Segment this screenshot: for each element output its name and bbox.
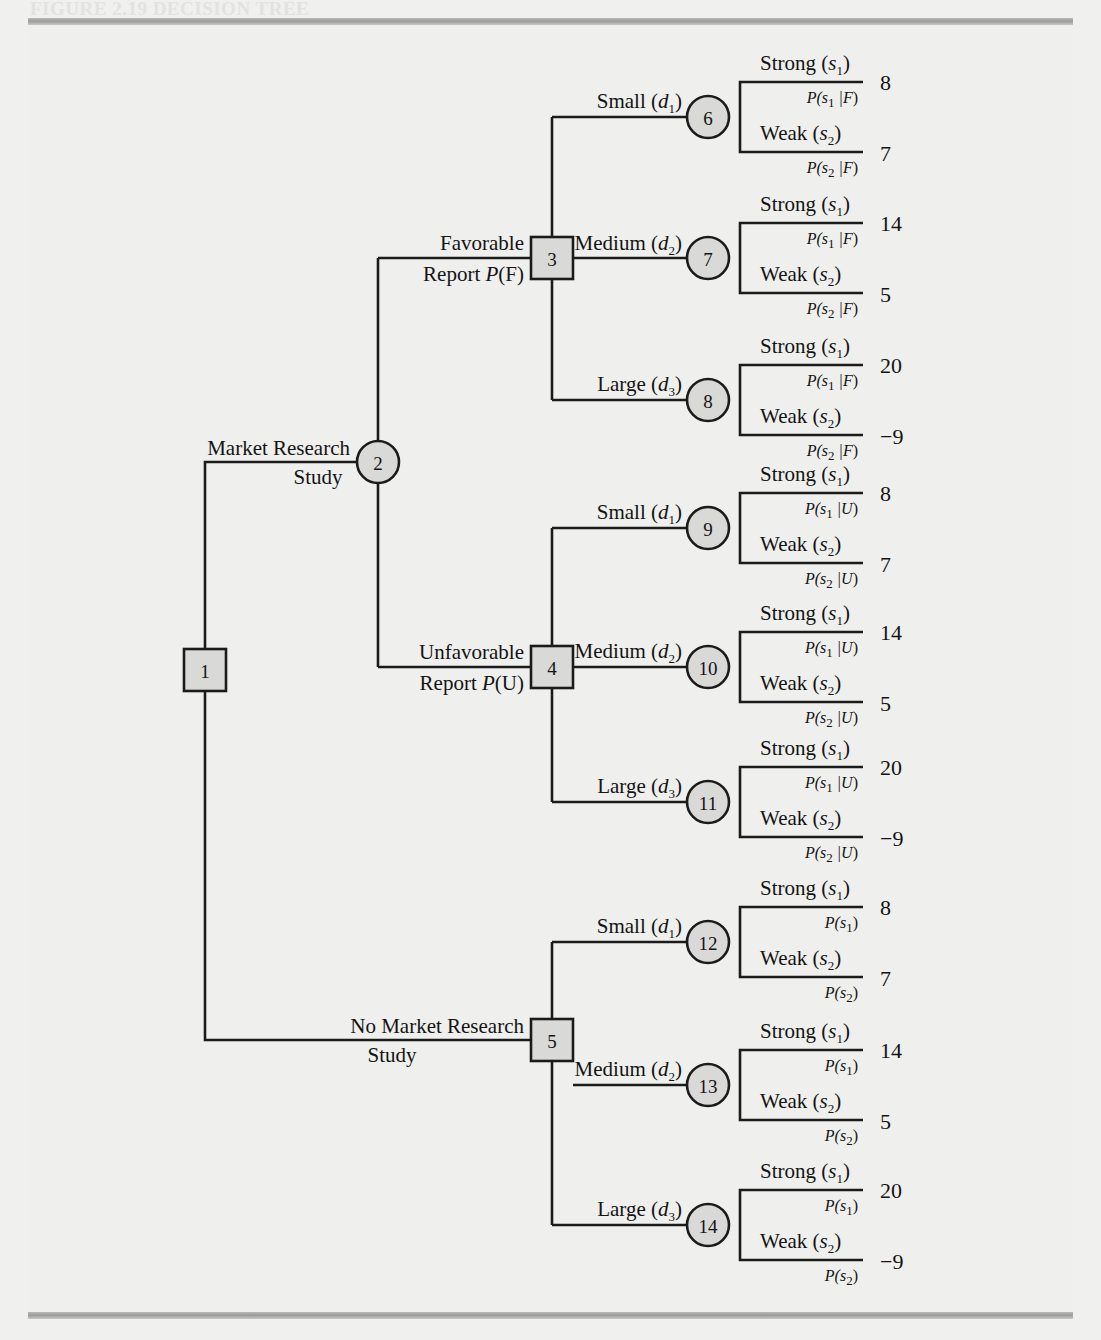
- node-number-13: 13: [699, 1076, 718, 1097]
- state-label-weak-14: Weak (s2): [760, 1229, 841, 1256]
- tree-node-6[interactable]: 6: [687, 96, 729, 138]
- prob-label-weak-12: P(s2): [824, 984, 858, 1005]
- node-number-6: 6: [703, 108, 713, 129]
- payoff-weak-13: 5: [880, 1109, 891, 1134]
- payoff-strong-14: 20: [880, 1178, 902, 1203]
- node-number-2: 2: [373, 453, 383, 474]
- node-number-3: 3: [547, 249, 557, 270]
- figure-page: FIGURE 2.19 DECISION TREE: [0, 0, 1101, 1340]
- state-label-weak-7: Weak (s2): [760, 262, 841, 289]
- state-label-strong-13: Strong (s1): [760, 1019, 850, 1046]
- state-label-weak-13: Weak (s2): [760, 1089, 841, 1116]
- node-number-14: 14: [699, 1216, 719, 1237]
- prob-label-strong-8: P(s1 |F): [806, 372, 858, 393]
- market-research-label-line2: Study: [293, 465, 343, 489]
- decision-label-medium-f: Medium (d2): [575, 231, 682, 258]
- node-number-9: 9: [703, 519, 713, 540]
- state-label-strong-14: Strong (s1): [760, 1159, 850, 1186]
- decision-label-small-n: Small (d1): [597, 914, 682, 941]
- payoff-strong-11: 20: [880, 755, 902, 780]
- node-number-4: 4: [547, 658, 557, 679]
- prob-label-strong-9: P(s1 |U): [804, 500, 858, 521]
- tree-node-8[interactable]: 8: [687, 379, 729, 421]
- payoff-strong-12: 8: [880, 895, 891, 920]
- prob-label-strong-12: P(s1): [824, 914, 858, 935]
- payoff-weak-10: 5: [880, 691, 891, 716]
- node-number-8: 8: [703, 391, 713, 412]
- decision-label-large-f: Large (d3): [597, 372, 682, 399]
- prob-label-strong-7: P(s1 |F): [806, 230, 858, 251]
- unfavorable-label-line2: Report P(U): [420, 671, 524, 695]
- branch-labels: Market Research Study No Market Research…: [207, 231, 524, 1067]
- payoff-weak-7: 5: [880, 282, 891, 307]
- decision-label-large-u: Large (d3): [597, 774, 682, 801]
- decision-label-small-u: Small (d1): [597, 500, 682, 527]
- no-market-research-label-line2: Study: [367, 1043, 417, 1067]
- tree-node-10[interactable]: 10: [687, 646, 729, 688]
- node-number-7: 7: [703, 249, 713, 270]
- prob-label-weak-7: P(s2 |F): [806, 300, 858, 321]
- prob-label-weak-6: P(s2 |F): [806, 159, 858, 180]
- prob-label-weak-11: P(s2 |U): [804, 844, 858, 865]
- payoff-weak-8: −9: [880, 424, 903, 449]
- state-label-weak-11: Weak (s2): [760, 806, 841, 833]
- state-label-strong-9: Strong (s1): [760, 462, 850, 489]
- tree-node-7[interactable]: 7: [687, 237, 729, 279]
- prob-label-weak-14: P(s2): [824, 1267, 858, 1288]
- payoff-strong-8: 20: [880, 353, 902, 378]
- prob-label-weak-13: P(s2): [824, 1127, 858, 1148]
- state-label-strong-12: Strong (s1): [760, 876, 850, 903]
- payoff-weak-14: −9: [880, 1249, 903, 1274]
- decision-label-medium-n: Medium (d2): [575, 1057, 682, 1084]
- decision-label-small-f: Small (d1): [597, 89, 682, 116]
- node-number-12: 12: [699, 933, 718, 954]
- tree-node-11[interactable]: 11: [687, 781, 729, 823]
- node-number-11: 11: [699, 793, 717, 814]
- payoff-strong-7: 14: [880, 211, 902, 236]
- state-label-weak-10: Weak (s2): [760, 671, 841, 698]
- state-label-strong-6: Strong (s1): [760, 51, 850, 78]
- tree-node-4[interactable]: 4: [531, 646, 573, 688]
- tree-node-9[interactable]: 9: [687, 507, 729, 549]
- prob-label-strong-14: P(s1): [824, 1197, 858, 1218]
- decision-tree-svg: Market Research Study No Market Research…: [0, 0, 1101, 1340]
- state-label-strong-8: Strong (s1): [760, 334, 850, 361]
- prob-label-weak-9: P(s2 |U): [804, 570, 858, 591]
- payoff-strong-10: 14: [880, 620, 902, 645]
- state-label-weak-9: Weak (s2): [760, 532, 841, 559]
- decision-label-medium-u: Medium (d2): [575, 639, 682, 666]
- unfavorable-label-line1: Unfavorable: [419, 640, 524, 664]
- state-label-weak-6: Weak (s2): [760, 121, 841, 148]
- prob-label-strong-10: P(s1 |U): [804, 639, 858, 660]
- node-number-1: 1: [200, 661, 210, 682]
- payoff-strong-6: 8: [880, 70, 891, 95]
- edge-root-to-no-market-research: [205, 692, 532, 1040]
- payoff-weak-11: −9: [880, 826, 903, 851]
- tree-node-12[interactable]: 12: [687, 921, 729, 963]
- prob-label-strong-6: P(s1 |F): [806, 89, 858, 110]
- state-label-strong-7: Strong (s1): [760, 192, 850, 219]
- tree-node-1[interactable]: 1: [184, 649, 226, 691]
- state-label-weak-12: Weak (s2): [760, 946, 841, 973]
- state-label-weak-8: Weak (s2): [760, 404, 841, 431]
- payoff-weak-12: 7: [880, 966, 891, 991]
- tree-node-13[interactable]: 13: [687, 1064, 729, 1106]
- edge-root-to-market-research: [205, 462, 358, 648]
- payoff-strong-9: 8: [880, 481, 891, 506]
- tree-node-5[interactable]: 5: [531, 1019, 573, 1061]
- prob-label-weak-10: P(s2 |U): [804, 709, 858, 730]
- payoff-weak-9: 7: [880, 552, 891, 577]
- market-research-label-line1: Market Research: [207, 436, 350, 460]
- favorable-label-line1: Favorable: [440, 231, 524, 255]
- node-number-5: 5: [547, 1031, 557, 1052]
- tree-node-14[interactable]: 14: [687, 1204, 729, 1246]
- state-label-strong-10: Strong (s1): [760, 601, 850, 628]
- payoff-weak-6: 7: [880, 141, 891, 166]
- payoff-strong-13: 14: [880, 1038, 902, 1063]
- tree-node-3[interactable]: 3: [531, 237, 573, 279]
- terminal-labels: Strong (s1)P(s1 |F)8Weak (s2)P(s2 |F)7St…: [760, 51, 903, 1288]
- prob-label-strong-13: P(s1): [824, 1057, 858, 1078]
- tree-node-2[interactable]: 2: [357, 441, 399, 483]
- prob-label-weak-8: P(s2 |F): [806, 442, 858, 463]
- prob-label-strong-11: P(s1 |U): [804, 774, 858, 795]
